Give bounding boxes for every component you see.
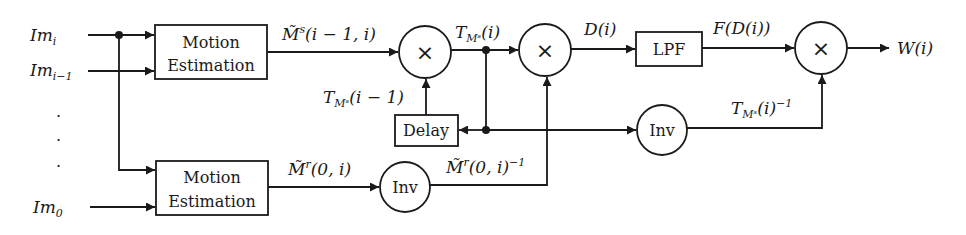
svg-text:LPF: LPF (653, 40, 686, 59)
svg-text:Inv: Inv (649, 121, 675, 140)
output-label-w-i: W(i) (897, 38, 933, 58)
input-im-i-minus-1: Imi−1 (29, 60, 73, 83)
svg-text:×: × (812, 36, 830, 61)
svg-text:Estimation: Estimation (167, 56, 255, 75)
label-t-ms-i: TMˢ(i) (455, 22, 500, 45)
label-f-d-i: F(D(i)) (712, 18, 770, 38)
input-ellipsis: · · · (56, 107, 61, 176)
inverse-node-1: Inv (380, 162, 430, 212)
multiply-node-2: × (519, 24, 571, 76)
svg-text:×: × (416, 40, 434, 65)
svg-text:Inv: Inv (392, 178, 418, 197)
block-diagram: Imi Imi−1 · · · Im0 Motion Estimation Mo… (0, 0, 966, 235)
svg-text:·: · (56, 131, 61, 150)
label-m-r: M̃r(0, i) (287, 158, 351, 179)
svg-text:Imi−1: Imi−1 (29, 60, 73, 83)
delay-block: Delay (395, 115, 458, 146)
input-im-i: Imi (29, 25, 56, 48)
wire-im-i-to-me2 (119, 35, 155, 170)
svg-text:·: · (56, 157, 61, 176)
svg-text:Motion: Motion (182, 33, 240, 52)
multiply-node-3: × (795, 22, 847, 74)
svg-text:Delay: Delay (403, 121, 449, 140)
svg-text:·: · (56, 107, 61, 126)
svg-text:×: × (536, 38, 554, 63)
input-im-0: Im0 (32, 197, 63, 220)
motion-estimation-block-2: Motion Estimation (156, 161, 268, 215)
inverse-node-2: Inv (637, 105, 687, 155)
svg-text:Estimation: Estimation (168, 192, 256, 211)
label-m-s: M̃s(i − 1, i) (281, 23, 376, 44)
motion-estimation-block-1: Motion Estimation (155, 25, 267, 79)
svg-text:Im0: Im0 (32, 197, 63, 220)
multiply-node-1: × (399, 26, 451, 78)
svg-text:Motion: Motion (183, 168, 241, 187)
label-m-r-inv: M̃r(0, i)−1 (445, 156, 525, 177)
label-t-ms-prev: TMˢ(i − 1) (323, 87, 404, 110)
label-t-ms-inv: TMˢ(i)−1 (731, 97, 792, 121)
label-d-i: D(i) (583, 19, 616, 39)
lpf-block: LPF (636, 32, 702, 66)
svg-text:Imi: Imi (29, 25, 56, 48)
